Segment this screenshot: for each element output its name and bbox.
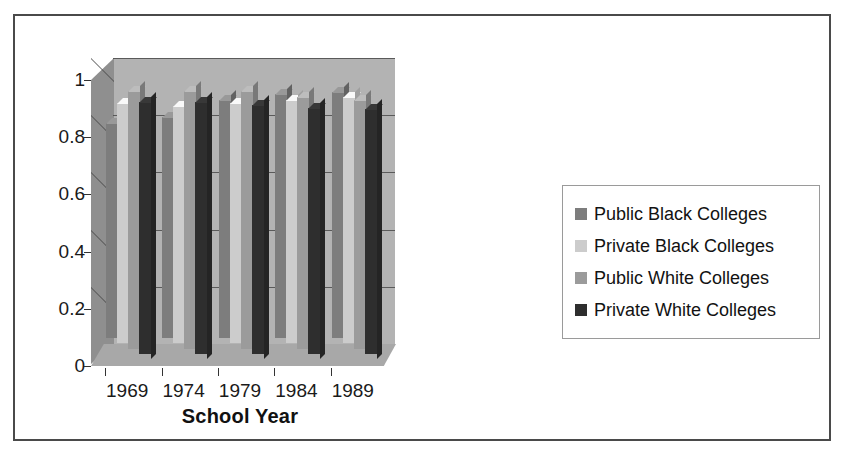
x-axis: 19691974197919841989: [90, 378, 420, 406]
x-tick-mark: [218, 368, 219, 376]
legend-item[interactable]: Private White Colleges: [575, 294, 809, 326]
legend-swatch-icon: [575, 304, 587, 316]
chart-frame: 00.20.40.60.81 19691974197919841989 Scho…: [13, 14, 831, 441]
legend-swatch-icon: [575, 208, 587, 220]
gridline: [113, 58, 395, 59]
bar-side-face: [151, 92, 156, 359]
bar: [252, 105, 264, 354]
x-tick-mark: [162, 368, 163, 376]
x-tick-label: 1989: [323, 380, 383, 402]
y-tick-label: 0.8: [21, 126, 85, 148]
bar-front-face: [195, 102, 207, 354]
legend-item[interactable]: Private Black Colleges: [575, 230, 809, 262]
y-tick-label: 0.4: [21, 241, 85, 263]
x-tick-label: 1974: [154, 380, 214, 402]
plot-area: [90, 58, 408, 374]
y-tick-label: 0: [21, 355, 85, 377]
bar-side-face: [207, 92, 212, 359]
bar-front-face: [308, 108, 320, 354]
legend-swatch-icon: [575, 240, 587, 252]
legend-label: Private White Colleges: [594, 300, 776, 321]
bar-front-face: [139, 102, 151, 354]
x-tick-label: 1969: [97, 380, 157, 402]
y-tick-label: 0.6: [21, 183, 85, 205]
legend-item[interactable]: Public Black Colleges: [575, 198, 809, 230]
chart-legend: Public Black CollegesPrivate Black Colle…: [562, 185, 820, 339]
bar-front-face: [365, 109, 377, 354]
y-tick-label: 1: [21, 69, 85, 91]
bar-side-face: [320, 98, 325, 359]
x-tick-label: 1979: [210, 380, 270, 402]
legend-label: Private Black Colleges: [594, 236, 774, 257]
bar: [308, 108, 320, 354]
x-tick-label: 1984: [266, 380, 326, 402]
y-tick-label: 0.2: [21, 298, 85, 320]
bar-side-face: [377, 99, 382, 359]
x-tick-mark: [331, 368, 332, 376]
bar: [195, 102, 207, 354]
bar-front-face: [252, 105, 264, 354]
legend-item[interactable]: Public White Colleges: [575, 262, 809, 294]
bar: [139, 102, 151, 354]
legend-label: Public Black Colleges: [594, 204, 767, 225]
bar: [365, 109, 377, 354]
x-tick-mark: [105, 368, 106, 376]
x-tick-mark: [274, 368, 275, 376]
x-axis-title: School Year: [90, 405, 390, 428]
legend-swatch-icon: [575, 272, 587, 284]
legend-label: Public White Colleges: [594, 268, 769, 289]
bar-side-face: [264, 95, 269, 359]
